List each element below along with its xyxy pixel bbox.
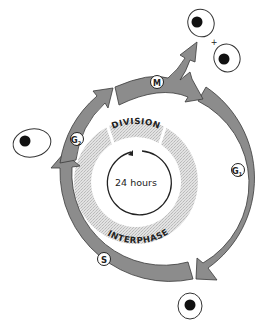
center-label: 24 hours [115, 177, 157, 188]
plus-sign: + [211, 38, 218, 47]
svg-text:S: S [101, 255, 107, 265]
phase-g2-badge: G2 [71, 133, 84, 146]
phase-m-badge: M [151, 76, 164, 89]
g1-arrow [196, 87, 254, 280]
phase-g1-badge: G1 [232, 164, 245, 177]
cell-cycle-diagram: DIVISION INTERPHASE 24 hours G1 S G2 M [0, 0, 273, 331]
m-arrow [115, 42, 203, 105]
svg-text:M: M [153, 79, 161, 88]
cell-g1-stage [178, 293, 202, 319]
cell-g2-stage [11, 126, 53, 160]
phase-s-badge: S [98, 253, 111, 266]
cell-daughter-1 [183, 5, 218, 41]
